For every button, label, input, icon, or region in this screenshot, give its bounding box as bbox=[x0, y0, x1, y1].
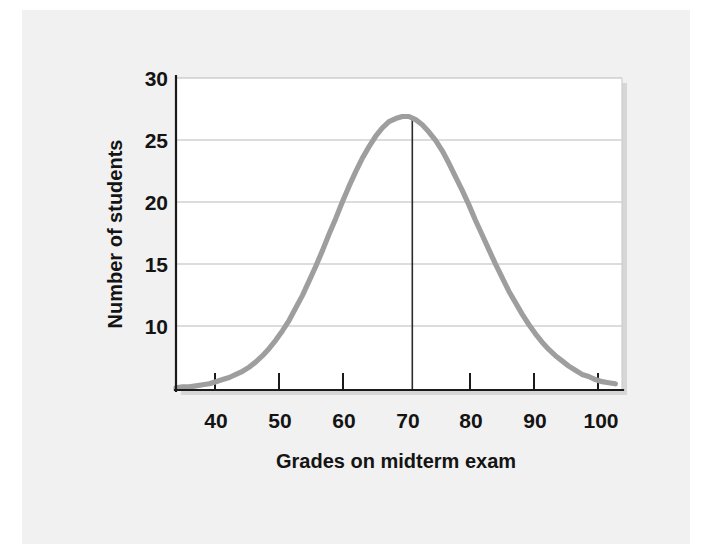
x-tick-label-80: 80 bbox=[459, 409, 482, 432]
plot-area-background bbox=[176, 78, 622, 390]
y-axis-title: Number of students bbox=[104, 140, 126, 329]
y-tick-label-15: 15 bbox=[145, 253, 169, 276]
x-tick-labels: 40 50 60 70 80 90 100 bbox=[204, 409, 618, 432]
x-tick-label-100: 100 bbox=[583, 409, 618, 432]
y-tick-labels: 30 25 20 15 10 bbox=[145, 67, 169, 338]
page-root: 30 25 20 15 10 40 50 60 70 80 90 100 Gra… bbox=[0, 0, 708, 554]
y-tick-label-25: 25 bbox=[145, 129, 169, 152]
y-tick-label-10: 10 bbox=[145, 315, 168, 338]
y-tick-label-20: 20 bbox=[145, 191, 168, 214]
x-tick-label-50: 50 bbox=[268, 409, 291, 432]
x-tick-label-40: 40 bbox=[204, 409, 227, 432]
x-tick-label-70: 70 bbox=[396, 409, 419, 432]
x-axis-title: Grades on midterm exam bbox=[276, 450, 516, 472]
x-tick-label-90: 90 bbox=[523, 409, 546, 432]
chart-svg: 30 25 20 15 10 40 50 60 70 80 90 100 Gra… bbox=[0, 0, 708, 554]
y-tick-label-30: 30 bbox=[145, 67, 168, 90]
chart-figure: 30 25 20 15 10 40 50 60 70 80 90 100 Gra… bbox=[0, 0, 708, 554]
x-tick-label-60: 60 bbox=[332, 409, 355, 432]
